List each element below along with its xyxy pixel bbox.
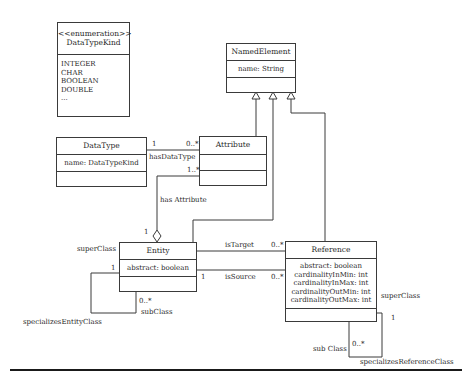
bottom-rule — [10, 369, 462, 371]
aggregation-diamond-icon — [153, 230, 161, 242]
class-name: DataType — [57, 138, 146, 154]
mult-label: 0..* — [271, 273, 283, 281]
generalization-arrow-icon — [269, 92, 277, 99]
mult-label: 0..* — [271, 241, 283, 249]
role-label: superClass — [381, 292, 420, 300]
association-label: isSource — [225, 273, 256, 281]
role-label: subClass — [141, 308, 173, 316]
mult-label: 0..* — [352, 340, 364, 348]
class-attribute-box[interactable]: Attribute — [199, 136, 267, 186]
enum-literal: CHAR — [61, 69, 129, 78]
enum-stereotype: <<enumeration>> — [58, 29, 129, 38]
enum-literal: ... — [61, 94, 129, 103]
role-label: sub Class — [313, 345, 347, 353]
class-name: Reference — [286, 242, 376, 258]
mult-label: 0..* — [139, 297, 151, 305]
mult-label: 1..* — [187, 166, 199, 174]
class-datatype-box[interactable]: DataType name: DataTypeKind — [56, 137, 147, 187]
generalization-arrow-icon — [252, 92, 260, 99]
generalization-reference-line — [291, 98, 325, 241]
enum-name: DataTypeKind — [58, 38, 129, 47]
association-label: isTarget — [225, 241, 254, 249]
enum-literal: INTEGER — [61, 60, 129, 69]
class-name: Attribute — [200, 137, 266, 154]
association-label: has Attribute — [160, 196, 207, 204]
generalization-arrow-icon — [287, 92, 295, 99]
class-attribute: cardinalityInMax: int — [286, 279, 376, 288]
class-entity-box[interactable]: Entity abstract: boolean — [119, 242, 197, 292]
association-label: hasDataType — [149, 153, 195, 161]
mult-label: 0..* — [186, 140, 198, 148]
class-namedelement-box[interactable]: NamedElement name: String — [226, 43, 296, 93]
enum-literal: DOUBLE — [61, 86, 129, 95]
class-name: NamedElement — [227, 44, 295, 60]
class-attribute: abstract: boolean — [120, 259, 196, 276]
mult-label: 1 — [391, 314, 395, 322]
class-name: Entity — [120, 243, 196, 259]
mult-label: 1 — [152, 140, 156, 148]
mult-label: 1 — [111, 264, 115, 272]
association-label: specializesReferenceClass — [360, 358, 454, 366]
association-label: specializesEntityClass — [23, 318, 102, 326]
mult-label: 1 — [144, 228, 148, 236]
class-attribute: name: String — [227, 60, 295, 77]
enum-datatypekind-box[interactable]: <<enumeration>> DataTypeKind INTEGER CHA… — [57, 22, 130, 117]
class-attribute: abstract: boolean — [286, 262, 376, 271]
enum-literal: BOOLEAN — [61, 77, 129, 86]
class-attribute: cardinalityOutMin: int — [286, 288, 376, 297]
class-attribute: name: DataTypeKind — [57, 154, 146, 171]
class-reference-box[interactable]: Reference abstract: boolean cardinalityI… — [285, 241, 377, 322]
mult-label: 1 — [201, 273, 205, 281]
class-attribute: cardinalityInMin: int — [286, 271, 376, 280]
role-label: superClass — [77, 245, 116, 253]
class-attribute: cardinalityOutMax: int — [286, 296, 376, 305]
